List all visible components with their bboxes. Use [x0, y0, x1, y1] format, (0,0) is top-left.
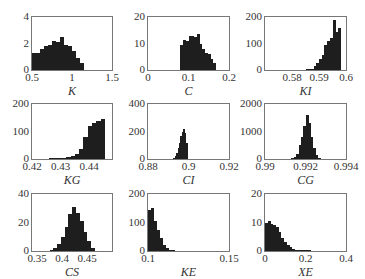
y-tick-label: 2 — [1, 38, 29, 49]
plot-area-ki — [264, 16, 347, 71]
plot-area-cs — [31, 193, 113, 252]
y-tick-label: 20 — [117, 11, 145, 22]
y-tick-label: 4 — [1, 11, 29, 22]
x-tick-label: 1 — [52, 72, 92, 83]
y-tick-label: 10 — [117, 38, 145, 49]
y-tick-label: 40 — [1, 188, 29, 199]
x-tick-label: 0.1 — [128, 253, 168, 264]
x-axis-label: KE — [159, 265, 219, 279]
histogram-bar — [308, 250, 311, 251]
x-tick-label: 0.9 — [169, 161, 209, 172]
y-tick-label: 400 — [117, 98, 145, 109]
y-tick-label: 100 — [117, 217, 145, 228]
x-tick-label: 0.6 — [326, 72, 365, 83]
y-tick-label: 10 — [234, 217, 262, 228]
x-tick-label: 0 — [245, 253, 285, 264]
x-tick-label: 0.45 — [67, 253, 107, 264]
y-tick-label: 100 — [234, 38, 262, 49]
y-tick-label: 200 — [117, 126, 145, 137]
histogram-bar — [338, 28, 341, 70]
histogram-bar — [80, 63, 84, 70]
x-tick-label: 0.5 — [12, 72, 52, 83]
plot-area-cg — [264, 103, 347, 160]
x-tick-label: 0.99 — [245, 161, 285, 172]
y-tick-label: 20 — [1, 217, 29, 228]
y-tick-label: 200 — [1, 98, 29, 109]
x-tick-label: 0.4 — [326, 253, 365, 264]
plot-area-xe — [264, 193, 347, 252]
histogram-bar — [91, 248, 95, 251]
x-axis-label: CS — [42, 265, 102, 279]
x-tick-label: 0.1 — [169, 72, 209, 83]
x-tick-label: 0.88 — [128, 161, 168, 172]
histogram-bar — [171, 250, 174, 251]
y-tick-label: 200 — [117, 188, 145, 199]
histogram-bar — [213, 63, 216, 70]
x-axis-label: KI — [276, 84, 336, 99]
x-tick-label: 0.2 — [286, 253, 326, 264]
x-axis-label: K — [42, 84, 102, 99]
plot-area-k — [31, 16, 113, 71]
plot-area-ci — [147, 103, 230, 160]
x-tick-label: 0 — [128, 72, 168, 83]
y-tick-label: 2000 — [234, 98, 262, 109]
plot-area-kg — [31, 103, 113, 160]
x-tick-label: 0.44 — [69, 161, 109, 172]
x-axis-label: C — [159, 84, 219, 99]
x-axis-label: XE — [276, 265, 336, 279]
x-axis-label: CG — [276, 173, 336, 188]
x-axis-label: CI — [159, 173, 219, 188]
x-axis-label: KG — [42, 173, 102, 188]
histogram-bar — [101, 119, 106, 159]
y-tick-label: 200 — [234, 11, 262, 22]
plot-area-c — [147, 16, 230, 71]
y-tick-label: 100 — [1, 126, 29, 137]
y-tick-label: 0 — [234, 64, 262, 75]
plot-area-ke — [147, 193, 230, 252]
histogram-bar — [186, 143, 188, 160]
histogram-bar — [318, 158, 321, 159]
x-tick-label: 0.992 — [286, 161, 326, 172]
y-tick-label: 20 — [234, 188, 262, 199]
x-tick-label: 0.994 — [326, 161, 365, 172]
y-tick-label: 1000 — [234, 126, 262, 137]
